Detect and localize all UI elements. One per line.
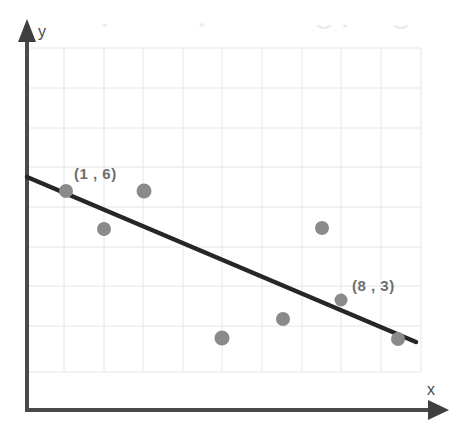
data-point	[315, 221, 329, 235]
y-axis-arrowhead	[18, 19, 36, 42]
point-annotation-2: (8 , 3)	[352, 277, 395, 294]
data-point	[137, 184, 152, 199]
point-annotation-1: (1 , 6)	[74, 165, 117, 182]
data-point	[215, 331, 230, 346]
x-axis-arrowhead	[428, 400, 449, 420]
data-point	[335, 294, 348, 307]
plot-canvas	[0, 0, 467, 436]
grid-lines	[27, 48, 421, 372]
data-point	[391, 332, 405, 346]
axis-lines	[18, 19, 449, 420]
x-axis-label: x	[427, 382, 435, 398]
scan-artifacts	[103, 23, 408, 28]
y-axis-label: y	[38, 24, 46, 40]
data-point	[276, 312, 290, 326]
data-point	[97, 222, 111, 236]
scatter-plot-figure: y x (1 , 6) (8 , 3)	[0, 0, 467, 436]
data-point	[59, 184, 73, 198]
